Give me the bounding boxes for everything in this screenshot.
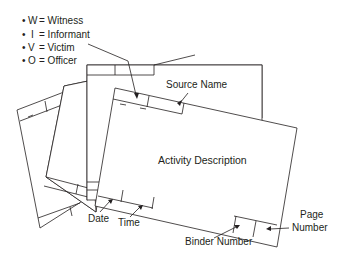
legend-item-witness: • W = Witness xyxy=(22,15,83,26)
legend-item-officer: • O = Officer xyxy=(22,55,78,66)
legend-code: W xyxy=(28,15,38,26)
binder-number-label: Binder Number xyxy=(185,236,253,247)
legend-label: = Witness xyxy=(39,15,83,26)
legend-bullet: • xyxy=(22,15,26,26)
legend-bullet: • xyxy=(22,55,26,66)
legend: • W = Witness • I = Informant • V = Vict… xyxy=(22,15,90,66)
date-label: Date xyxy=(88,213,110,224)
legend-item-victim: • V = Victim xyxy=(22,42,75,53)
legend-label: = Victim xyxy=(39,42,75,53)
legend-bullet: • xyxy=(22,29,26,40)
legend-label: = Informant xyxy=(39,29,90,40)
activity-description-label: Activity Description xyxy=(158,154,247,166)
legend-label: = Officer xyxy=(39,55,78,66)
legend-code: V xyxy=(28,42,35,53)
index-card-diagram: • W = Witness • I = Informant • V = Vict… xyxy=(0,0,343,258)
time-label: Time xyxy=(118,217,140,228)
source-name-label: Source Name xyxy=(166,79,228,90)
legend-code: I xyxy=(31,29,34,40)
legend-bullet: • xyxy=(22,42,26,53)
legend-item-informant: • I = Informant xyxy=(22,29,90,40)
legend-code: O xyxy=(28,55,36,66)
page-number-label-line1: Page xyxy=(300,209,324,220)
page-number-label-line2: Number xyxy=(292,222,328,233)
